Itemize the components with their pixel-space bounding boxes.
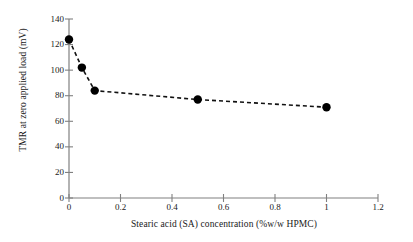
plot-area: [0, 0, 413, 242]
data-point-marker: [91, 86, 99, 94]
x-axis-title: Stearic acid (SA) concentration (%w/w HP…: [69, 219, 379, 229]
data-point-marker: [65, 35, 73, 43]
data-point-marker: [194, 95, 202, 103]
data-series: [65, 35, 331, 111]
data-point-marker: [78, 63, 86, 71]
axis-ticks: [65, 19, 378, 202]
chart-figure: TMR at zero applied load (mV) 0204060801…: [0, 0, 413, 242]
axes: [69, 19, 378, 198]
data-point-marker: [322, 103, 330, 111]
